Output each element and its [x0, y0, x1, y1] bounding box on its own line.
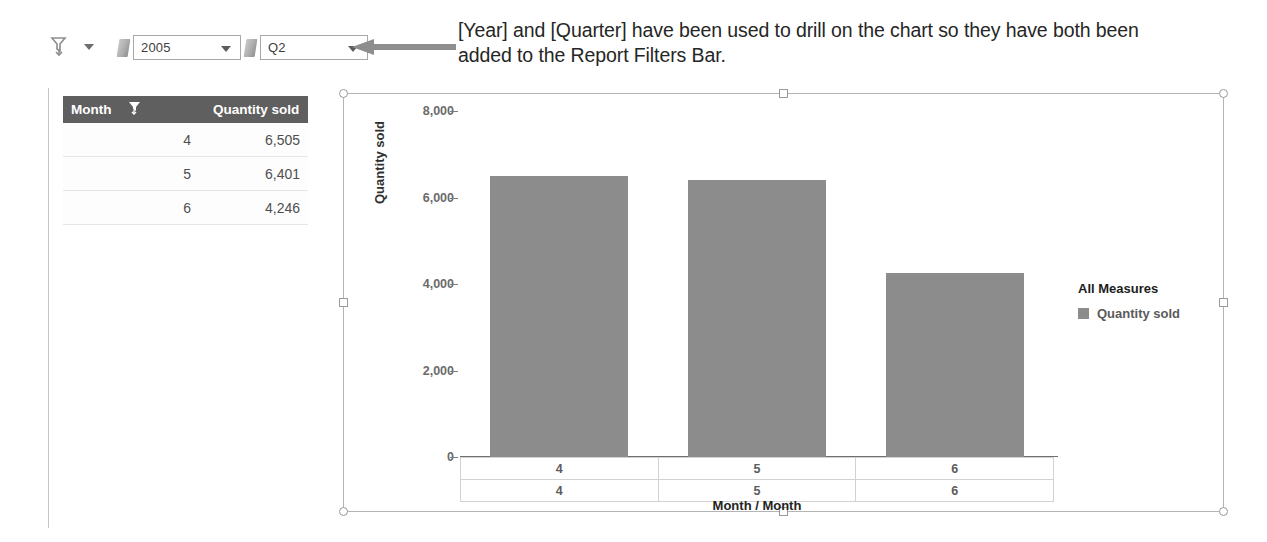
bar[interactable] [490, 176, 629, 457]
resize-handle-top-right[interactable] [1219, 89, 1228, 98]
legend-swatch-icon [1078, 308, 1089, 319]
table-row[interactable]: 56,401 [63, 157, 308, 191]
x-axis-label-cell[interactable]: 5 [658, 458, 856, 480]
y-axis-tick-mark [450, 371, 458, 372]
chart-container[interactable]: Quantity sold 02,0004,0006,0008,000 4564… [343, 93, 1224, 512]
page-tag-icon-year [117, 39, 131, 57]
cell-month: 4 [63, 123, 199, 157]
table-row[interactable]: 46,505 [63, 123, 308, 157]
resize-handle-middle-left[interactable] [339, 298, 348, 307]
x-axis-label-row: 456 [461, 458, 1054, 480]
y-axis-title: Quantity sold [372, 121, 387, 204]
quantity-sold-table: Month Quantity sold 46,50556,40164,246 [63, 96, 308, 225]
legend-title: All Measures [1078, 281, 1218, 296]
legend-label: Quantity sold [1097, 306, 1180, 321]
quarter-filter-value: Q2 [268, 40, 286, 55]
y-axis-tick-mark [450, 457, 458, 458]
y-axis-tick-mark [450, 198, 458, 199]
table-header-month-label: Month [71, 102, 111, 117]
x-axis-label-cell[interactable]: 6 [856, 458, 1054, 480]
page-tag-icon-quarter [244, 39, 258, 57]
left-arrow-annotation-icon [352, 38, 456, 56]
plot-area: 02,0004,0006,0008,000 [460, 111, 1054, 457]
cell-quantity-sold: 4,246 [199, 191, 308, 225]
table-row[interactable]: 64,246 [63, 191, 308, 225]
cell-month: 5 [63, 157, 199, 191]
chevron-down-icon[interactable] [221, 46, 231, 52]
bar[interactable] [688, 180, 827, 457]
chart-legend: All Measures Quantity sold [1078, 281, 1218, 321]
table-header-month[interactable]: Month [63, 96, 199, 123]
legend-items: Quantity sold [1078, 306, 1218, 321]
cell-quantity-sold: 6,505 [199, 123, 308, 157]
chevron-down-icon[interactable] [84, 44, 94, 50]
resize-handle-bottom-left[interactable] [339, 507, 348, 516]
cell-quantity-sold: 6,401 [199, 157, 308, 191]
year-filter-dropdown[interactable]: 2005 [133, 35, 241, 60]
legend-item[interactable]: Quantity sold [1078, 306, 1218, 321]
resize-handle-top-center[interactable] [779, 89, 788, 98]
y-axis-tick-mark [450, 111, 458, 112]
x-axis-label-cell[interactable]: 4 [461, 458, 659, 480]
table-header-row: Month Quantity sold [63, 96, 308, 123]
bar[interactable] [886, 273, 1025, 457]
table-body: 46,50556,40164,246 [63, 123, 308, 225]
table-header-quantity-sold[interactable]: Quantity sold [199, 96, 308, 123]
resize-handle-middle-right[interactable] [1219, 298, 1228, 307]
drill-filter-icon[interactable] [127, 101, 142, 118]
x-axis-title: Month / Month [460, 498, 1054, 513]
resize-handle-top-left[interactable] [339, 89, 348, 98]
resize-handle-bottom-right[interactable] [1219, 507, 1228, 516]
year-filter-value: 2005 [141, 40, 171, 55]
drill-filter-icon[interactable] [48, 34, 74, 58]
x-axis-label-grid: 456456 [460, 457, 1054, 502]
panel-divider [48, 88, 49, 528]
cell-month: 6 [63, 191, 199, 225]
y-axis-tick-mark [450, 284, 458, 285]
annotation-text: [Year] and [Quarter] have been used to d… [458, 18, 1158, 68]
